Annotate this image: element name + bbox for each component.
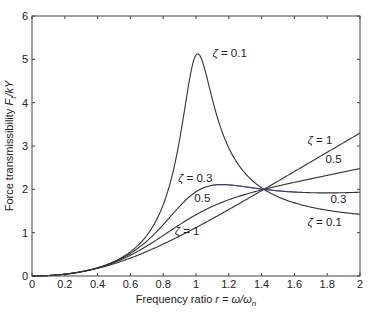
y-tick-label: 4: [22, 97, 28, 109]
x-tick-label: 1.4: [254, 278, 269, 290]
x-tick-label: 1: [193, 278, 199, 290]
curve-zeta-1: [32, 133, 360, 276]
y-tick-label: 0: [22, 270, 28, 282]
x-tick-label: 0.6: [123, 278, 138, 290]
x-axis-label: Frequency ratio r = ω/ωn: [136, 293, 257, 308]
x-tick-label: 1.8: [320, 278, 335, 290]
x-tick-label: 0: [29, 278, 35, 290]
curve-label: ζ = 0.1: [212, 47, 246, 60]
x-tick-label: 1.2: [221, 278, 236, 290]
transmissibility-chart: 00.20.40.60.811.21.41.61.820123456 ζ = 0…: [0, 0, 369, 312]
y-tick-label: 1: [22, 227, 28, 239]
x-tick-label: 0.2: [57, 278, 72, 290]
curve-label: 0.5: [194, 192, 210, 204]
y-tick-label: 2: [22, 183, 28, 195]
x-tick-label: 0.8: [156, 278, 171, 290]
curve-label: ζ = 1: [175, 225, 200, 238]
curve-zeta-0-1: [32, 54, 360, 276]
y-axis-label: Force transmissibility Ft/kY: [3, 80, 18, 211]
curve-label: 0.3: [330, 193, 346, 205]
y-tick-label: 5: [22, 53, 28, 65]
curve-label: ζ = 1: [308, 134, 333, 147]
x-tick-label: 2: [357, 278, 363, 290]
axis-ticks: 00.20.40.60.811.21.41.61.820123456: [22, 10, 363, 290]
y-tick-label: 3: [22, 140, 28, 152]
x-tick-label: 0.4: [90, 278, 105, 290]
x-tick-label: 1.6: [287, 278, 302, 290]
curve-label: 0.5: [326, 153, 342, 165]
curves: [32, 54, 360, 276]
curve-label: ζ = 0.3: [178, 172, 212, 185]
curve-label: ζ = 0.1: [308, 216, 342, 229]
y-tick-label: 6: [22, 10, 28, 22]
